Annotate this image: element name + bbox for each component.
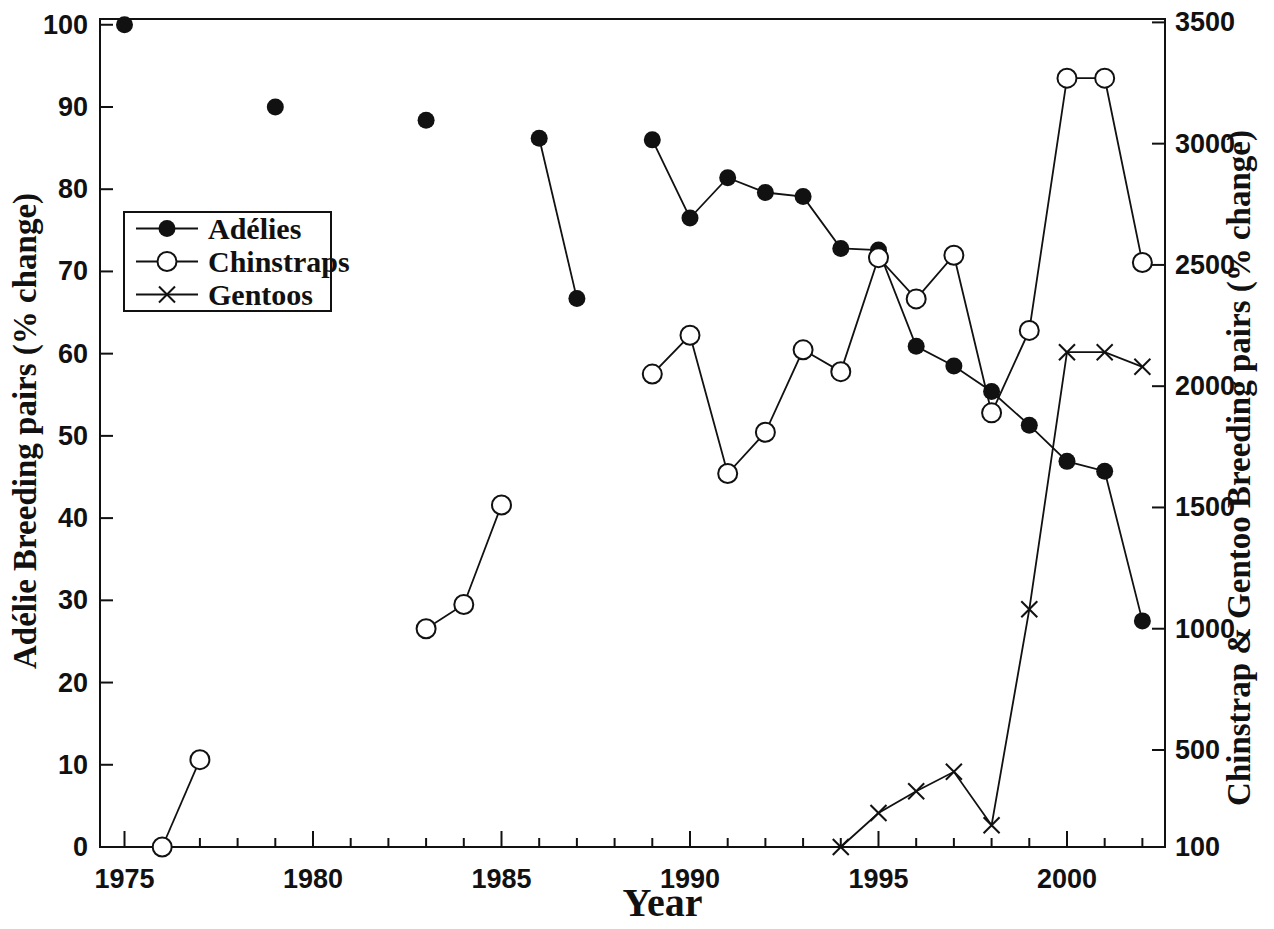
filled-circle-marker [945, 357, 962, 374]
right-axis-title: Chinstrap & Gentoo Breeding pairs (% cha… [1221, 130, 1258, 806]
right-y-tick-label: 500 [1175, 735, 1220, 765]
filled-circle-marker [681, 209, 698, 226]
legend-item-label: Adélies [208, 212, 301, 245]
open-circle-marker [944, 246, 963, 265]
filled-circle-marker [757, 184, 774, 201]
left-axis-title: Adélie Breeding pairs (% change) [7, 193, 44, 669]
chart-canvas: 1975198019851990199520000102030405060708… [0, 0, 1274, 929]
x-axis-tick-label: 1995 [848, 864, 908, 894]
x-axis-tick-label: 1975 [94, 864, 154, 894]
open-circle-marker [454, 595, 473, 614]
open-circle-marker [794, 340, 813, 359]
filled-circle-marker [1096, 463, 1113, 480]
open-circle-marker [492, 496, 511, 515]
legend-item-label: Gentoos [208, 278, 313, 311]
filled-circle-marker [1134, 612, 1151, 629]
right-y-tick-label: 3500 [1175, 7, 1235, 37]
left-y-tick-label: 60 [58, 339, 88, 369]
filled-circle-marker [719, 169, 736, 186]
filled-circle-marker [795, 188, 812, 205]
left-y-tick-label: 0 [73, 832, 88, 862]
left-y-tick-label: 20 [58, 668, 88, 698]
open-circle-marker [1095, 69, 1114, 88]
filled-circle-marker [1058, 453, 1075, 470]
filled-circle-marker [159, 220, 176, 237]
open-circle-marker [153, 838, 172, 857]
left-y-tick-label: 50 [58, 421, 88, 451]
filled-circle-marker [644, 131, 661, 148]
x-axis-tick-label: 2000 [1037, 864, 1097, 894]
open-circle-marker [907, 289, 926, 308]
filled-circle-marker [1021, 417, 1038, 434]
open-circle-marker [756, 423, 775, 442]
open-circle-marker [718, 464, 737, 483]
filled-circle-marker [908, 338, 925, 355]
open-circle-marker [417, 619, 436, 638]
x-axis-tick-label: 1980 [283, 864, 343, 894]
left-y-tick-label: 80 [58, 174, 88, 204]
x-axis-tick-label: 1985 [471, 864, 531, 894]
x-axis-title: Year [623, 880, 703, 925]
figure-page: 1975198019851990199520000102030405060708… [0, 0, 1274, 929]
left-y-tick-label: 100 [43, 10, 88, 40]
filled-circle-marker [116, 16, 133, 33]
open-circle-marker [982, 403, 1001, 422]
left-y-tick-label: 70 [58, 256, 88, 286]
filled-circle-marker [568, 290, 585, 307]
open-circle-marker [190, 750, 209, 769]
open-circle-marker [158, 252, 177, 271]
penguin-trend-chart: 1975198019851990199520000102030405060708… [0, 0, 1274, 929]
legend-item-label: Chinstraps [208, 245, 350, 278]
filled-circle-marker [832, 240, 849, 257]
open-circle-marker [680, 326, 699, 345]
legend: AdéliesChinstrapsGentoos [124, 212, 350, 312]
left-y-tick-label: 30 [58, 585, 88, 615]
chart-background [0, 0, 1274, 929]
filled-circle-marker [531, 130, 548, 147]
open-circle-marker [643, 365, 662, 384]
filled-circle-marker [267, 98, 284, 115]
open-circle-marker [1057, 69, 1076, 88]
open-circle-marker [869, 248, 888, 267]
right-y-tick-label: 100 [1175, 832, 1220, 862]
left-y-tick-label: 10 [58, 750, 88, 780]
open-circle-marker [831, 362, 850, 381]
left-y-tick-label: 40 [58, 503, 88, 533]
filled-circle-marker [418, 112, 435, 129]
open-circle-marker [1020, 321, 1039, 340]
left-y-tick-label: 90 [58, 92, 88, 122]
open-circle-marker [1133, 253, 1152, 272]
